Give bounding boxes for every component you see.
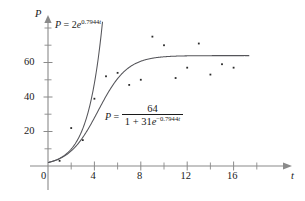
exponential-exponent: 0.7944t [81, 18, 101, 25]
data-point [186, 67, 188, 69]
data-point [70, 127, 72, 129]
x-axis-arrow [283, 162, 292, 169]
logistic-numerator: 64 [122, 103, 183, 114]
logistic-equals: = [114, 111, 120, 122]
y-tick-label-20: 20 [24, 125, 35, 136]
x-tick-label-0: 0 [41, 170, 46, 181]
logistic-denominator: 1 + 31e−0.7944t [122, 116, 183, 127]
scatter-points [59, 36, 235, 162]
exponential-equation-label: P=2e0.7944t [55, 19, 101, 30]
x-tick-label-16: 16 [227, 170, 238, 181]
data-point [82, 139, 84, 141]
x-tick-label-8: 8 [137, 170, 142, 181]
data-point [59, 160, 61, 162]
exponential-equals: = [64, 19, 70, 30]
data-point [163, 44, 165, 46]
x-axis-label: t [291, 170, 294, 181]
figure-container: P t 0 4 8 12 16 20 40 60 P=2e0.7944t P=6… [0, 0, 305, 201]
data-point [128, 84, 130, 86]
y-axis-label: P [35, 8, 41, 19]
data-point [94, 98, 96, 100]
data-point [233, 67, 235, 69]
y-tick-label-40: 40 [24, 91, 35, 102]
data-point [175, 77, 177, 79]
exponential-P: P [55, 19, 61, 30]
data-point [117, 72, 119, 74]
logistic-P: P [105, 111, 111, 122]
logistic-equation-label: P=641 + 31e−0.7944t [105, 104, 183, 128]
data-point [221, 63, 223, 65]
data-point [198, 43, 200, 45]
data-point [210, 74, 212, 76]
logistic-fraction: 641 + 31e−0.7944t [122, 103, 183, 127]
x-tick-label-12: 12 [181, 170, 192, 181]
data-point [152, 36, 154, 38]
y-axis-arrow [44, 15, 51, 23]
data-point [105, 75, 107, 77]
exponential-curve [48, 22, 103, 163]
data-point [140, 79, 142, 81]
x-tick-label-4: 4 [91, 170, 96, 181]
logistic-lhs: P= [105, 111, 122, 122]
y-tick-label-60: 60 [24, 56, 35, 67]
